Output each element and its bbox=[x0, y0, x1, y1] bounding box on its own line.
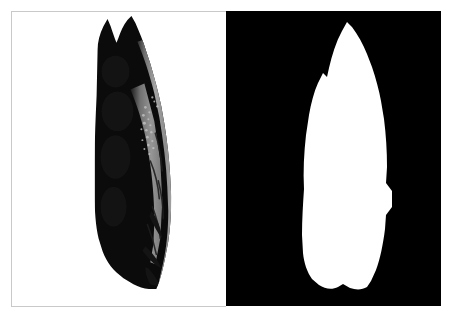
panel-artifact-photograph bbox=[11, 11, 226, 307]
panel-artifact-binary-mask bbox=[226, 11, 441, 306]
artifact-photograph-image bbox=[12, 12, 226, 306]
artifact-mask-image bbox=[226, 11, 441, 306]
figure-root bbox=[0, 0, 453, 324]
